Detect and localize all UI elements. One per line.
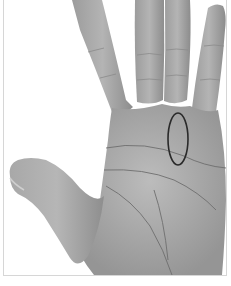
index-finger bbox=[72, 0, 133, 113]
little-finger bbox=[192, 4, 226, 113]
thumb bbox=[10, 158, 104, 264]
ring-finger bbox=[164, 0, 191, 103]
image-frame bbox=[3, 0, 227, 276]
middle-finger bbox=[135, 0, 165, 104]
palm-photo bbox=[4, 0, 227, 276]
palm bbox=[74, 104, 226, 275]
